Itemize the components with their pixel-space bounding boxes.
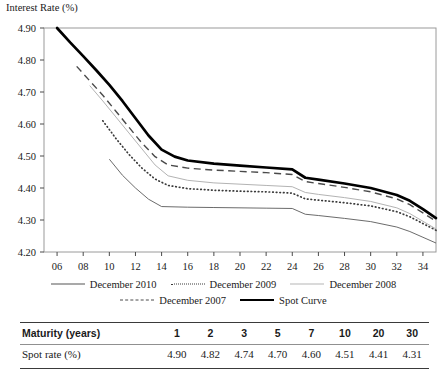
series-line-december-2009 — [103, 121, 436, 230]
y-axis-tick-label: 4.40 — [18, 183, 36, 194]
legend-item-december-2010: December 2010 — [51, 279, 157, 290]
table-cell: 4.41 — [362, 343, 396, 365]
legend-label: December 2007 — [159, 295, 226, 306]
table-cell: 4.82 — [194, 343, 228, 365]
x-axis-tick-label: 14 — [156, 261, 167, 272]
legend-item-december-2009: December 2009 — [171, 279, 277, 290]
y-axis-tick-label: 4.50 — [18, 151, 36, 162]
table-header-cell: 7 — [295, 322, 329, 343]
table-cell: 4.70 — [261, 343, 295, 365]
legend-row-2: December 2007Spot Curve — [0, 292, 447, 308]
chart-plot-area: 4.204.304.404.504.604.704.804.9006081012… — [0, 16, 447, 276]
spot-curve-figure: Interest Rate (%) 4.204.304.404.504.604.… — [0, 0, 447, 382]
legend-label: December 2008 — [329, 279, 396, 290]
table-rule-bottom — [20, 368, 429, 369]
table-header-label: Maturity (years) — [20, 322, 160, 343]
x-axis-tick-label: 20 — [235, 261, 246, 272]
y-axis-tick-label: 4.30 — [18, 215, 36, 226]
table-header-cell: 1 — [160, 322, 194, 343]
table-header-cell: 30 — [395, 322, 429, 343]
table-cell: 4.60 — [295, 343, 329, 365]
x-axis-tick-label: 28 — [339, 261, 350, 272]
table-cell: 4.90 — [160, 343, 194, 365]
table-row: Spot rate (%) 4.904.824.744.704.604.514.… — [20, 343, 429, 365]
x-axis-tick-label: 12 — [130, 261, 141, 272]
table-header-cell: 5 — [261, 322, 295, 343]
y-axis-tick-label: 4.20 — [18, 247, 36, 258]
legend-swatch-icon — [171, 280, 205, 289]
x-axis-tick-label: 22 — [261, 261, 272, 272]
legend-swatch-icon — [290, 280, 324, 289]
legend-row-1: December 2010December 2009December 2008 — [0, 276, 447, 292]
table-cell: 4.31 — [395, 343, 429, 365]
x-axis-tick-label: 08 — [78, 261, 89, 272]
table-cell: 4.51 — [328, 343, 362, 365]
table-header-cell: 3 — [227, 322, 261, 343]
line-chart-svg: 4.204.304.404.504.604.704.804.9006081012… — [0, 16, 447, 276]
y-axis-tick-label: 4.60 — [18, 119, 36, 130]
x-axis-tick-label: 26 — [313, 261, 324, 272]
y-axis-tick-label: 4.70 — [18, 87, 36, 98]
y-axis-tick-label: 4.80 — [18, 55, 36, 66]
spot-rate-table: Maturity (years) 12357102030 Spot rate (… — [20, 322, 429, 365]
series-line-december-2010 — [109, 159, 436, 243]
chart-legend: December 2010December 2009December 2008 … — [0, 276, 447, 308]
legend-label: December 2009 — [210, 279, 277, 290]
table-cell: 4.74 — [227, 343, 261, 365]
table-header-cell: 2 — [194, 322, 228, 343]
x-axis-tick-label: 06 — [52, 261, 63, 272]
x-axis-tick-label: 10 — [104, 261, 115, 272]
table-row-label: Spot rate (%) — [20, 343, 160, 365]
table-header-cell: 20 — [362, 322, 396, 343]
table-header-cell: 10 — [328, 322, 362, 343]
legend-swatch-icon — [120, 296, 154, 305]
x-axis-tick-label: 18 — [209, 261, 220, 272]
x-axis-tick-label: 16 — [182, 261, 193, 272]
legend-item-december-2008: December 2008 — [290, 279, 396, 290]
y-axis-title: Interest Rate (%) — [6, 2, 78, 13]
x-axis-tick-label: 24 — [287, 261, 298, 272]
legend-item-december-2007: December 2007 — [120, 295, 226, 306]
legend-label: Spot Curve — [279, 295, 327, 306]
series-line-spot-curve — [57, 28, 436, 218]
series-line-december-2008 — [90, 86, 436, 229]
x-axis-tick-label: 32 — [392, 261, 403, 272]
table-header-row: Maturity (years) 12357102030 — [20, 322, 429, 343]
legend-label: December 2010 — [90, 279, 157, 290]
legend-item-spot-curve: Spot Curve — [240, 295, 327, 306]
legend-swatch-icon — [240, 296, 274, 305]
x-axis-tick-label: 30 — [365, 261, 376, 272]
legend-swatch-icon — [51, 280, 85, 289]
x-axis-tick-label: 34 — [418, 261, 429, 272]
y-axis-tick-label: 4.90 — [18, 23, 36, 34]
series-line-december-2007 — [77, 66, 436, 221]
plot-frame — [44, 28, 436, 252]
